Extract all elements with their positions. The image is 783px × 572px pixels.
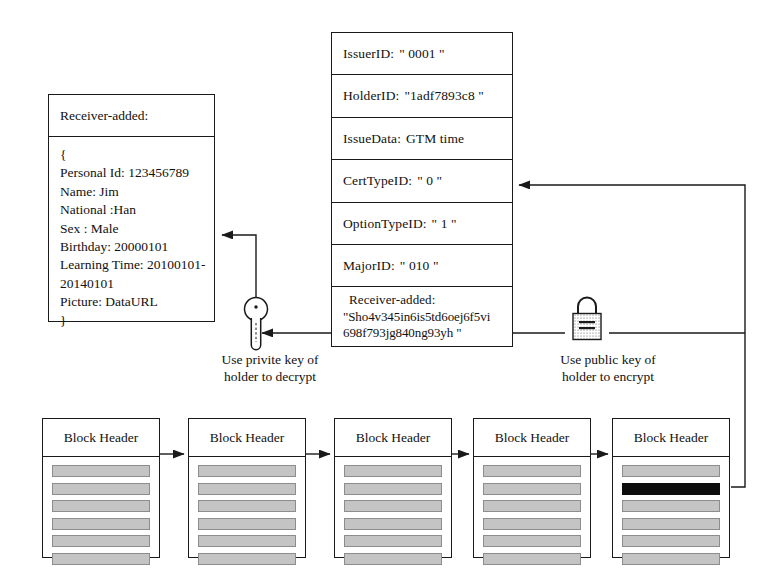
cert-value-option-type-id: " 1 " <box>427 216 457 232</box>
transaction-bar <box>344 500 442 512</box>
cert-ciphertext-line-2: 698f793jg840ng93yh " <box>343 325 512 342</box>
cert-label-issue-data: IssueData: <box>343 131 401 147</box>
blockchain-block-5: Block Header <box>612 418 730 558</box>
cert-row-receiver-added: Receiver-added: "Sho4v345in6is5td6oej6f5… <box>332 287 512 350</box>
transaction-bar <box>198 553 296 565</box>
transaction-bar <box>483 483 581 495</box>
caption-private-key: Use privite key of holder to decrypt <box>186 351 354 385</box>
transaction-bar <box>622 553 720 565</box>
transaction-bar <box>198 465 296 477</box>
cert-row-major-id: MajorID: " 010 " <box>332 245 512 287</box>
receiver-field-learning-time-end: 20140101 <box>60 275 214 293</box>
receiver-field-name: Name: Jim <box>60 183 214 201</box>
transaction-bar <box>52 535 150 547</box>
cert-value-cert-type-id: " 0 " <box>412 173 442 189</box>
transaction-bar <box>344 535 442 547</box>
transaction-bar <box>198 500 296 512</box>
block-body <box>189 457 305 565</box>
transaction-bar <box>622 518 720 530</box>
receiver-added-record: Receiver-added: { Personal Id: 123456789… <box>48 94 215 322</box>
cert-label-cert-type-id: CertTypeID: <box>343 173 412 189</box>
block-body <box>43 457 159 565</box>
cert-label-issuer-id: IssuerID: <box>343 46 394 62</box>
receiver-added-title: Receiver-added: <box>49 95 214 137</box>
key-icon <box>238 296 274 352</box>
transaction-bar <box>483 518 581 530</box>
caption-public-key: Use public key of holder to encrypt <box>528 351 688 385</box>
padlock-icon <box>565 293 609 345</box>
transaction-bar <box>52 483 150 495</box>
transaction-bar <box>622 500 720 512</box>
caption-public-key-line-2: holder to encrypt <box>528 368 688 385</box>
cert-row-holder-id: HolderID: "1adf7893c8 " <box>332 75 512 118</box>
cert-value-issuer-id: " 0001 " <box>394 46 445 62</box>
block-body <box>335 457 451 565</box>
receiver-field-birthday: Birthday: 20000101 <box>60 238 214 256</box>
transaction-bar <box>483 553 581 565</box>
cert-value-holder-id: "1adf7893c8 " <box>399 88 483 104</box>
blockchain-block-1: Block Header <box>42 418 160 558</box>
diagram-canvas: IssuerID: " 0001 " HolderID: "1adf7893c8… <box>0 0 783 572</box>
cert-label-holder-id: HolderID: <box>343 88 399 104</box>
transaction-bar <box>52 553 150 565</box>
transaction-bar <box>344 465 442 477</box>
blockchain-block-2: Block Header <box>188 418 306 558</box>
line-key-to-receiver <box>222 235 256 300</box>
caption-private-key-line-2: holder to decrypt <box>186 368 354 385</box>
block-header-label: Block Header <box>43 419 159 457</box>
blockchain-block-4: Block Header <box>473 418 591 558</box>
certificate-record: IssuerID: " 0001 " HolderID: "1adf7893c8… <box>331 32 513 347</box>
receiver-field-sex: Sex : Male <box>60 220 214 238</box>
transaction-bar <box>344 483 442 495</box>
block-header-label: Block Header <box>189 419 305 457</box>
block-body <box>474 457 590 565</box>
receiver-added-body: { Personal Id: 123456789 Name: Jim Natio… <box>49 137 214 330</box>
transaction-bar <box>52 465 150 477</box>
blockchain-block-3: Block Header <box>334 418 452 558</box>
transaction-bar <box>622 535 720 547</box>
cert-ciphertext-line-1: "Sho4v345in6is5td6oej6f5vi <box>343 309 512 326</box>
transaction-bar <box>344 518 442 530</box>
transaction-bar <box>483 500 581 512</box>
transaction-bar <box>198 483 296 495</box>
cert-row-issuer-id: IssuerID: " 0001 " <box>332 33 512 75</box>
block-header-label: Block Header <box>613 419 729 457</box>
receiver-open-brace: { <box>60 146 214 164</box>
caption-private-key-line-1: Use privite key of <box>186 351 354 368</box>
cert-label-receiver-added: Receiver-added: <box>343 292 512 309</box>
cert-value-major-id: " 010 " <box>395 258 439 274</box>
receiver-field-learning-time: Learning Time: 20100101- <box>60 256 214 274</box>
transaction-bar <box>483 535 581 547</box>
block-header-label: Block Header <box>474 419 590 457</box>
cert-row-option-type-id: OptionTypeID: " 1 " <box>332 203 512 245</box>
receiver-field-national: National :Han <box>60 201 214 219</box>
receiver-field-picture: Picture: DataURL <box>60 293 214 311</box>
transaction-bar <box>52 518 150 530</box>
transaction-bar <box>483 465 581 477</box>
cert-label-major-id: MajorID: <box>343 258 395 274</box>
cert-row-issue-data: IssueData: GTM time <box>332 118 512 160</box>
cert-row-cert-type-id: CertTypeID: " 0 " <box>332 160 512 203</box>
cert-label-option-type-id: OptionTypeID: <box>343 216 427 232</box>
transaction-bar-highlighted <box>622 483 720 495</box>
transaction-bar <box>622 465 720 477</box>
receiver-close-brace: } <box>60 312 214 330</box>
cert-value-issue-data: GTM time <box>401 131 464 147</box>
transaction-bar <box>198 535 296 547</box>
transaction-bar <box>344 553 442 565</box>
transaction-bar <box>198 518 296 530</box>
block-header-label: Block Header <box>335 419 451 457</box>
block-body <box>613 457 729 565</box>
transaction-bar <box>52 500 150 512</box>
receiver-field-personal-id: Personal Id: 123456789 <box>60 164 214 182</box>
caption-public-key-line-1: Use public key of <box>528 351 688 368</box>
